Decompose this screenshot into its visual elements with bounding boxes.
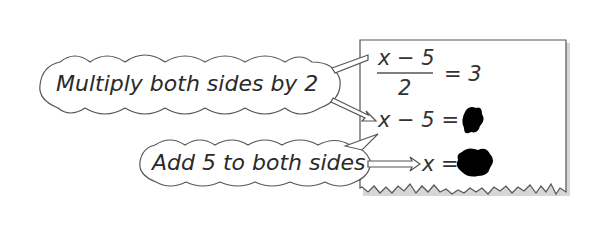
callout-add-text: Add 5 to both sides [152,150,366,175]
equation-line-2: x − 5 = [378,108,459,132]
equation-rhs: = 3 [444,62,482,86]
callout-multiply-text: Multiply both sides by 2 [56,71,318,96]
equation-numerator: x − 5 [378,46,435,70]
equation-denominator: 2 [398,76,411,100]
equation-line-3: x = [422,152,459,176]
